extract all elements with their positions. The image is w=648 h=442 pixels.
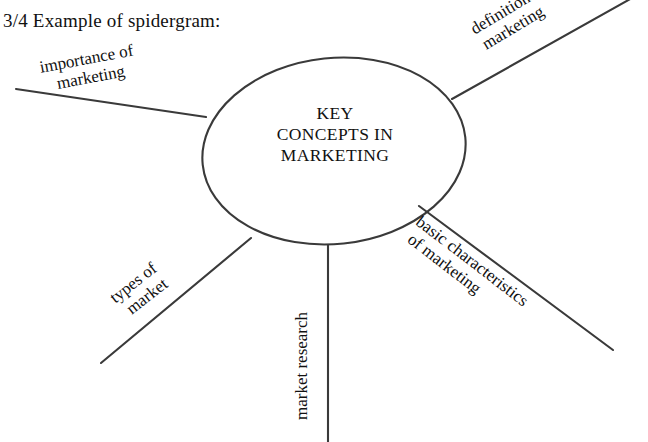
page-canvas: 3/4 Example of spidergram: KEY CONCEPTS … [0,0,648,442]
center-node-label: KEY CONCEPTS IN MARKETING [255,103,415,166]
center-node-label-line-1: KEY [255,103,415,124]
center-node-label-line-3: MARKETING [255,145,415,166]
branch-label-market-research: market research [292,312,311,420]
branch-label-research-line-1: market research [292,312,311,420]
center-node-label-line-2: CONCEPTS IN [255,124,415,145]
